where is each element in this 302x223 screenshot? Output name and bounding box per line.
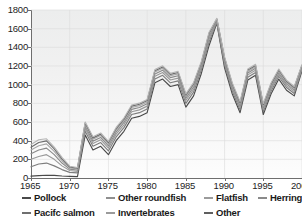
- legend-item[interactable]: Invertebrates: [106, 208, 174, 218]
- legend-swatch-icon: [204, 197, 213, 200]
- legend-item[interactable]: Other: [204, 208, 240, 218]
- legend-item[interactable]: Pollock: [22, 193, 66, 203]
- legend-label: Other roundfish: [118, 193, 186, 203]
- legend-label: Flatfish: [216, 193, 248, 203]
- chart-legend: PollockOther roundfishFlatfishHerringPac…: [0, 193, 302, 223]
- legend-label: Invertebrates: [118, 208, 174, 218]
- chart-lines: [0, 0, 302, 186]
- legend-swatch-icon: [22, 212, 31, 215]
- legend-swatch-icon: [106, 212, 115, 215]
- legend-label: Herring: [270, 193, 302, 203]
- legend-item[interactable]: Herring: [258, 193, 302, 203]
- series-line: [31, 18, 302, 167]
- legend-swatch-icon: [22, 197, 31, 200]
- chart-screenshot: 020040060080010001200140016001800 196519…: [0, 0, 302, 223]
- chart-plot-wrapper: 020040060080010001200140016001800 196519…: [0, 0, 302, 186]
- legend-item[interactable]: Flatfish: [204, 193, 248, 203]
- legend-swatch-icon: [106, 197, 115, 200]
- legend-label: Pollock: [34, 193, 66, 203]
- legend-item[interactable]: Pacifc salmon: [22, 208, 95, 218]
- legend-item[interactable]: Other roundfish: [106, 193, 186, 203]
- legend-label: Other: [216, 208, 240, 218]
- legend-swatch-icon: [258, 197, 267, 200]
- legend-swatch-icon: [204, 212, 213, 215]
- legend-label: Pacifc salmon: [34, 208, 95, 218]
